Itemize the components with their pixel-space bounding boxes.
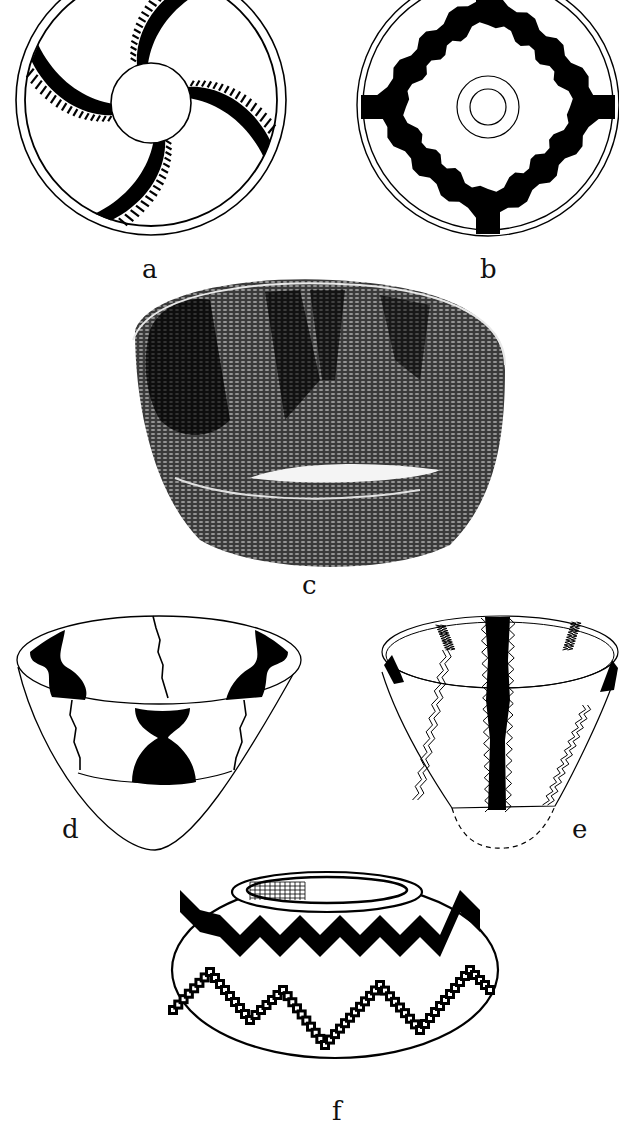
cardinal-block (476, 0, 500, 4)
panel-label-e: e (572, 816, 587, 842)
panel-f-drawing (168, 872, 498, 1058)
panel-label-c: c (302, 572, 317, 598)
panel-b-drawing (357, 0, 619, 236)
panel-e-dashed-base (452, 806, 555, 848)
figure-canvas (0, 0, 619, 1138)
panel-a-drawing (16, 0, 286, 235)
panel-label-b: b (480, 256, 497, 282)
cardinal-block (591, 95, 615, 119)
panel-c-photo (133, 279, 505, 567)
panel-a-center-circle (111, 63, 191, 143)
panel-label-d: d (62, 816, 79, 842)
cardinal-block (361, 95, 385, 119)
panel-label-a: a (142, 256, 158, 282)
check-hole (488, 988, 492, 992)
panel-d-drawing (17, 616, 301, 850)
cardinal-block (476, 210, 500, 234)
panel-label-f: f (332, 1098, 342, 1124)
